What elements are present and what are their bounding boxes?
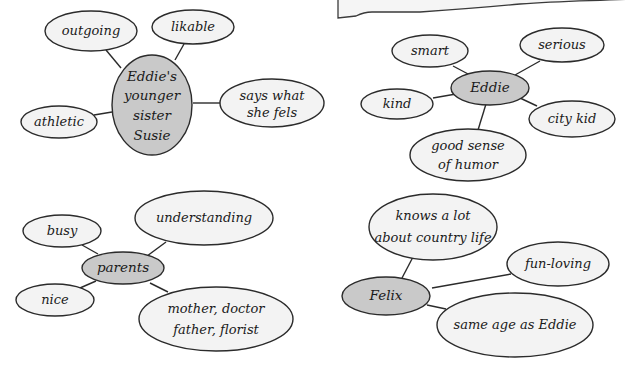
link-line <box>433 94 456 98</box>
center-label: sister <box>133 107 173 123</box>
link-line <box>80 281 96 288</box>
trait-label: fun-loving <box>524 256 591 271</box>
trait-label: serious <box>538 37 586 52</box>
link-line <box>106 50 121 68</box>
trait-label: city kid <box>548 111 597 126</box>
center-label: parents <box>97 259 149 275</box>
link-line <box>150 283 168 292</box>
link-line <box>432 274 511 288</box>
trait-bubble-says-what-she-feels <box>220 79 324 127</box>
center-label: Susie <box>133 127 170 143</box>
trait-label: knows a lot <box>395 208 471 223</box>
link-line <box>402 257 413 278</box>
trait-label: understanding <box>156 210 252 225</box>
susie-map: outgoing likable says what she fels athl… <box>21 10 324 155</box>
link-line <box>515 61 540 75</box>
center-label: Eddie <box>469 79 509 95</box>
link-line <box>478 104 486 130</box>
trait-label: she fels <box>247 105 298 120</box>
trait-label: mother, doctor <box>167 301 265 316</box>
link-line <box>427 305 446 309</box>
trait-label: same age as Eddie <box>453 317 576 332</box>
trait-label: likable <box>171 19 215 34</box>
center-label: Felix <box>369 287 403 303</box>
trait-label: busy <box>47 223 78 238</box>
eddie-map: smart serious kind city kid good sense o… <box>361 28 615 181</box>
trait-label: kind <box>383 96 412 111</box>
center-label: younger <box>123 87 182 103</box>
parents-map: busy understanding nice mother, doctor f… <box>16 191 293 351</box>
trait-label: smart <box>411 43 450 58</box>
character-maps-diagram: outgoing likable says what she fels athl… <box>0 0 634 368</box>
felix-map: knows a lot about country life fun-lovin… <box>342 194 609 357</box>
paper-note-edge <box>338 0 634 18</box>
trait-label: says what <box>239 88 305 103</box>
link-line <box>147 242 166 256</box>
center-label: Eddie's <box>126 68 177 84</box>
trait-label: nice <box>41 292 69 307</box>
link-line <box>520 98 537 106</box>
link-line <box>82 245 98 254</box>
trait-label: of humor <box>438 157 499 172</box>
trait-bubble-knows-a-lot-about-country-life <box>369 194 497 260</box>
trait-label: good sense <box>431 138 505 153</box>
trait-label: outgoing <box>62 23 120 38</box>
trait-label: athletic <box>34 114 85 129</box>
trait-label: father, florist <box>172 322 259 337</box>
trait-label: about country life <box>374 230 492 245</box>
trait-bubble-mother-doctor-father-florist <box>139 287 293 351</box>
link-line <box>175 44 184 60</box>
link-line <box>94 112 112 115</box>
